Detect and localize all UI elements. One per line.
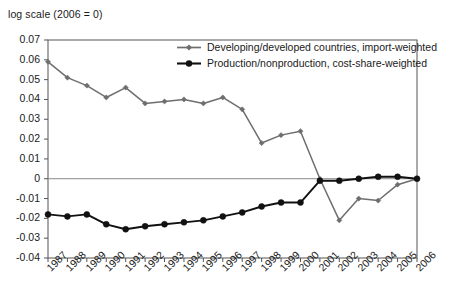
- y-axis-tick-label: 0.05: [6, 73, 40, 85]
- data-point-marker: [181, 219, 187, 225]
- data-point-marker: [200, 217, 206, 223]
- data-series: [45, 59, 419, 223]
- y-axis-tick-label: -0.04: [6, 251, 40, 263]
- data-point-marker: [103, 221, 109, 227]
- data-point-marker: [375, 174, 381, 180]
- chart-container: log scale (2006 = 0) 0.070.060.050.040.0…: [0, 0, 452, 297]
- y-axis-tick-label: -0.03: [6, 231, 40, 243]
- legend-item: Developing/developed countries, import-w…: [176, 40, 428, 55]
- data-point-marker: [201, 101, 206, 106]
- data-point-marker: [414, 176, 420, 182]
- data-point-marker: [162, 221, 168, 227]
- y-axis-tick-label: -0.02: [6, 211, 40, 223]
- line-marker-icon: [176, 57, 202, 70]
- data-series: [45, 174, 420, 233]
- data-point-marker: [181, 97, 186, 102]
- data-point-marker: [142, 223, 148, 229]
- legend-item-label: Production/nonproduction, cost-share-wei…: [207, 57, 427, 70]
- data-point-marker: [123, 226, 129, 232]
- data-point-marker: [395, 174, 401, 180]
- data-point-marker: [239, 209, 245, 215]
- y-axis-tick-label: 0.07: [6, 33, 40, 45]
- data-point-marker: [356, 176, 362, 182]
- y-axis-tick-label: 0.01: [6, 152, 40, 164]
- data-point-marker: [162, 99, 167, 104]
- data-point-marker: [278, 133, 283, 138]
- y-axis-tick-label: 0.06: [6, 53, 40, 65]
- data-point-marker: [64, 213, 70, 219]
- series-line: [48, 62, 417, 221]
- legend-item-label: Developing/developed countries, import-w…: [207, 41, 437, 54]
- data-point-marker: [317, 178, 323, 184]
- y-axis-tick-label: 0.04: [6, 92, 40, 104]
- data-point-marker: [336, 178, 342, 184]
- data-point-marker: [45, 211, 51, 217]
- chart-legend: Developing/developed countries, import-w…: [176, 40, 428, 72]
- data-point-marker: [298, 129, 303, 134]
- data-point-marker: [220, 213, 226, 219]
- y-axis-tick-label: 0: [6, 172, 40, 184]
- data-point-marker: [259, 203, 265, 209]
- data-point-marker: [278, 200, 284, 206]
- series-line: [48, 177, 417, 230]
- y-axis-tick-label: -0.01: [6, 192, 40, 204]
- data-point-marker: [297, 200, 303, 206]
- data-point-marker: [84, 211, 90, 217]
- y-axis-tick-label: 0.02: [6, 132, 40, 144]
- y-axis-tick-label: 0.03: [6, 112, 40, 124]
- legend-item: Production/nonproduction, cost-share-wei…: [176, 56, 428, 71]
- line-marker-icon: [176, 41, 202, 54]
